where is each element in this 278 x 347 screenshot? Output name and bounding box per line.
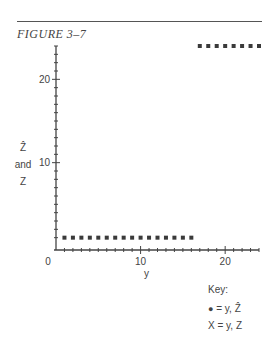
x-marker-point — [172, 236, 176, 240]
key-title: Key: — [208, 284, 228, 295]
y-axis-label-and: and — [3, 159, 43, 170]
x-marker-point — [189, 236, 193, 240]
y-tick-label: 20 — [39, 74, 51, 85]
x-marker-point — [96, 236, 100, 240]
key-entry-x: X = y, Z — [208, 320, 242, 331]
key-entry-x-label: = y, Z — [217, 320, 242, 331]
x-marker-point — [122, 236, 126, 240]
x-tick-label: 20 — [220, 256, 232, 267]
x-marker-point — [147, 236, 151, 240]
x-tick-label: 10 — [135, 256, 147, 267]
dot-marker-icon: ● — [208, 304, 213, 314]
x-marker-point — [257, 44, 261, 48]
x-marker-point — [249, 44, 253, 48]
x-marker-point — [156, 236, 160, 240]
x-marker-point — [139, 236, 143, 240]
x-marker-point — [164, 236, 168, 240]
y-axis-label-zhat: Ẑ — [3, 142, 43, 153]
scatter-plot: 102001020 — [0, 0, 278, 347]
x-marker-point — [223, 44, 227, 48]
x-marker-point — [88, 236, 92, 240]
x-marker-point — [215, 44, 219, 48]
x-marker-point — [232, 44, 236, 48]
x-marker-point — [113, 236, 117, 240]
key-entry-dot: ● = y, Ẑ — [208, 303, 241, 314]
x-tick-label: 0 — [45, 256, 51, 267]
x-marker-point — [240, 44, 244, 48]
x-marker-point — [130, 236, 134, 240]
x-marker-point — [62, 236, 66, 240]
x-marker-point — [206, 44, 210, 48]
x-axis-label: y — [144, 268, 149, 279]
x-marker-icon: X — [208, 320, 215, 331]
x-marker-point — [105, 236, 109, 240]
x-marker-point — [198, 44, 202, 48]
y-axis-label-z: Z — [3, 176, 43, 187]
x-marker-point — [181, 236, 185, 240]
x-marker-point — [79, 236, 83, 240]
key-entry-dot-label: = y, Ẑ — [216, 303, 241, 314]
x-marker-point — [71, 236, 75, 240]
